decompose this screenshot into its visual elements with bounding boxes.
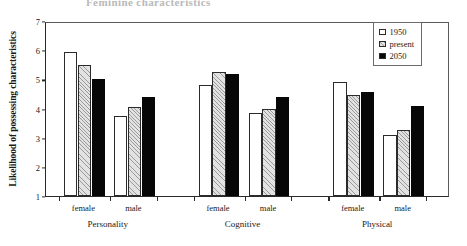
bar-present-physical-male — [397, 130, 410, 196]
bar-subgroup — [199, 23, 243, 196]
x-axis-tick — [157, 197, 158, 201]
bar-2050-cognitive-male — [276, 97, 289, 196]
legend-label: 1950 — [390, 27, 407, 37]
legend-item: 1950 — [379, 26, 414, 38]
y-axis-tick — [42, 80, 46, 81]
x-axis-tick — [379, 197, 380, 201]
bar-present-physical-female — [347, 95, 360, 196]
bar-present-cognitive-male — [262, 109, 275, 197]
bar-2050-physical-female — [361, 92, 374, 196]
bar-1950-personality-female — [64, 52, 77, 196]
y-axis-tick-label: 1 — [0, 192, 40, 202]
bar-present-cognitive-female — [212, 72, 225, 196]
x-axis-tick — [245, 197, 246, 201]
y-axis-tick-label: 7 — [0, 17, 40, 27]
running-head: Feminine characteristics — [0, 0, 467, 9]
x-axis-tick-label: male — [260, 203, 277, 213]
running-head-text: Feminine characteristics — [86, 0, 467, 8]
bar-1950-cognitive-female — [199, 85, 212, 196]
bar-present-personality-female — [78, 65, 91, 196]
bar-subgroup — [249, 23, 293, 196]
x-axis-group-label: Cognitive — [225, 219, 261, 229]
bar-group — [46, 23, 181, 196]
y-axis-tick-label: 2 — [0, 163, 40, 173]
y-axis-tick — [42, 109, 46, 110]
legend-swatch-present-icon — [379, 41, 386, 48]
legend-swatch-2050-icon — [379, 53, 386, 60]
bar-2050-personality-male — [142, 97, 155, 196]
bar-2050-personality-female — [92, 79, 105, 196]
bar-1950-physical-male — [383, 135, 396, 196]
bar-1950-personality-male — [114, 116, 127, 196]
legend-item: 2050 — [379, 50, 414, 62]
x-axis-tick-label: female — [72, 203, 95, 213]
bar-subgroup — [333, 23, 377, 196]
y-axis-tick — [42, 138, 46, 139]
legend-label: present — [390, 39, 415, 49]
x-axis-tick — [194, 197, 195, 201]
x-axis-tick — [110, 197, 111, 201]
legend-label: 2050 — [390, 51, 407, 61]
x-axis-tick-label: female — [207, 203, 230, 213]
bar-2050-physical-male — [411, 106, 424, 196]
y-axis-tick — [42, 167, 46, 168]
bar-group — [181, 23, 316, 196]
legend-item: present — [379, 38, 414, 50]
y-axis-tick-label: 5 — [0, 75, 40, 85]
chart-figure: Feminine characteristics Likelihood of p… — [0, 0, 467, 246]
x-axis-tick — [328, 197, 329, 201]
x-axis-tick — [59, 197, 60, 201]
x-axis-tick-label: male — [394, 203, 411, 213]
bar-subgroup — [64, 23, 108, 196]
bar-2050-cognitive-female — [226, 74, 239, 197]
bar-subgroup — [114, 23, 158, 196]
x-axis-tick — [426, 197, 427, 201]
y-axis-tick-label: 6 — [0, 46, 40, 56]
x-axis-group-label: Physical — [362, 219, 393, 229]
x-axis-tick-label: male — [125, 203, 142, 213]
y-axis-tick-label: 4 — [0, 105, 40, 115]
bar-1950-physical-female — [333, 82, 346, 196]
y-axis-tick — [42, 21, 46, 22]
y-axis-tick — [42, 51, 46, 52]
x-axis-tick — [291, 197, 292, 201]
bar-1950-cognitive-male — [249, 113, 262, 196]
legend-swatch-1950-icon — [379, 29, 386, 36]
bar-present-personality-male — [128, 107, 141, 196]
chart-legend: 1950 present 2050 — [373, 22, 422, 66]
x-axis-tick-label: female — [341, 203, 364, 213]
y-axis-tick-label: 3 — [0, 134, 40, 144]
x-axis-group-label: Personality — [88, 219, 129, 229]
y-axis-tick — [42, 196, 46, 197]
